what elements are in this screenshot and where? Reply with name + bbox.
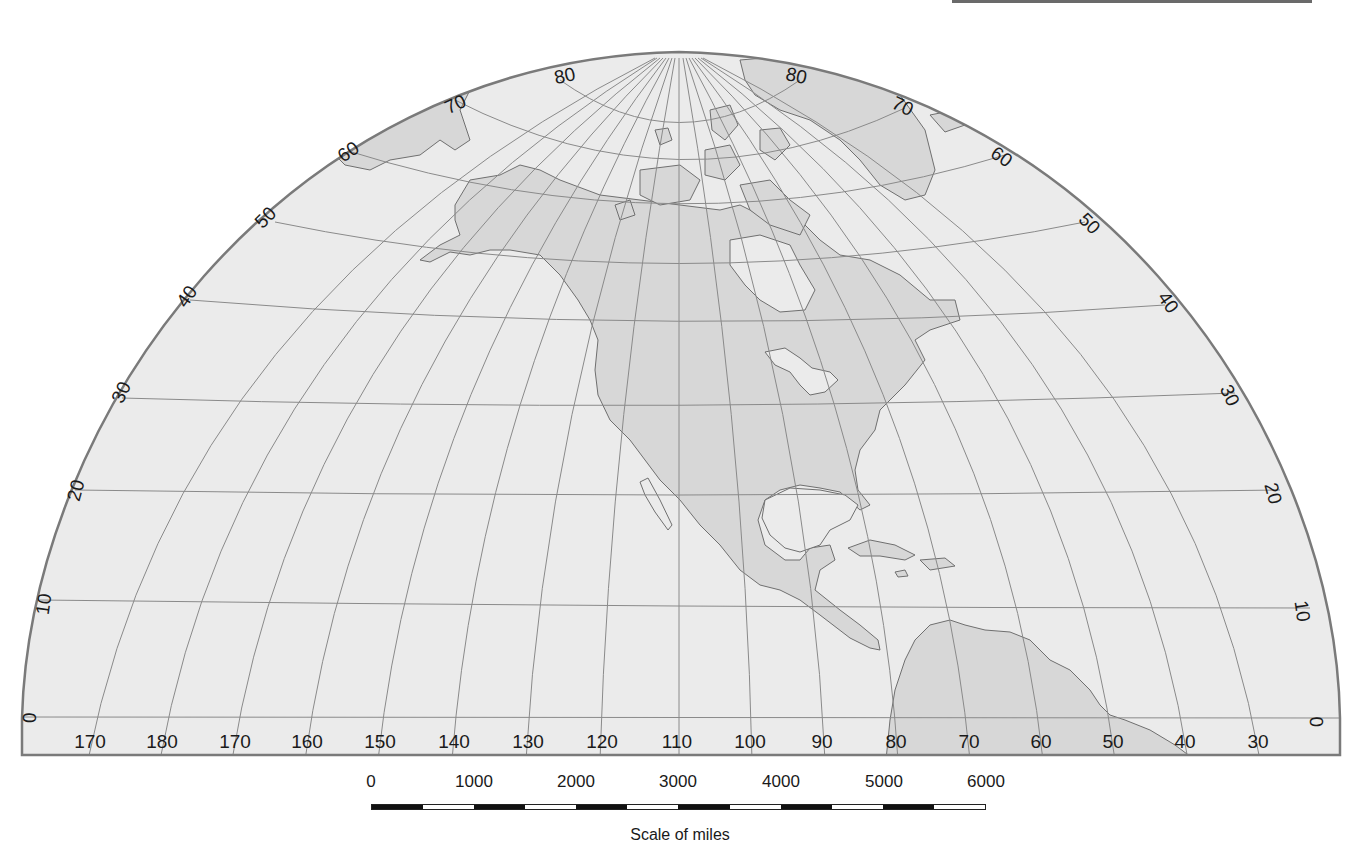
lat-label: 10 xyxy=(32,592,56,616)
scale-segment xyxy=(883,805,934,809)
lon-label: 60 xyxy=(1030,731,1051,752)
lon-label: 50 xyxy=(1102,731,1123,752)
lon-label: 160 xyxy=(291,731,323,752)
lon-label: 110 xyxy=(662,731,692,752)
scale-title: Scale of miles xyxy=(360,826,1000,844)
lon-label: 140 xyxy=(438,731,470,752)
lat-label: 10 xyxy=(1291,599,1315,623)
scale-segment xyxy=(474,805,525,809)
lon-label: 170 xyxy=(219,731,251,752)
scale-tick: 4000 xyxy=(762,772,800,792)
scale-tick: 0 xyxy=(366,772,375,792)
lat-label: 0 xyxy=(19,712,40,723)
scale-tick: 2000 xyxy=(557,772,595,792)
lat-label: 80 xyxy=(784,63,809,88)
lon-label: 120 xyxy=(586,731,618,752)
scale-tick: 6000 xyxy=(967,772,1005,792)
lon-label: 30 xyxy=(1247,731,1268,752)
scale-of-miles: 0 1000 2000 3000 4000 5000 6000 Scale of… xyxy=(360,772,1000,852)
lon-label: 40 xyxy=(1174,731,1195,752)
scale-segment xyxy=(372,805,423,809)
scale-tick: 1000 xyxy=(455,772,493,792)
lon-label: 70 xyxy=(958,731,979,752)
scale-segment xyxy=(678,805,729,809)
scale-segment xyxy=(730,805,781,809)
lon-label: 170 xyxy=(74,731,106,752)
scale-tick: 3000 xyxy=(659,772,697,792)
lon-label: 80 xyxy=(885,731,906,752)
scale-segment xyxy=(423,805,474,809)
lon-label: 150 xyxy=(364,731,396,752)
scale-segment xyxy=(934,805,985,809)
lon-label: 90 xyxy=(811,731,832,752)
lon-label: 100 xyxy=(734,731,766,752)
scale-segment xyxy=(781,805,832,809)
lon-label: 180 xyxy=(146,731,178,752)
map: 170 180 170 160 150 140 130 120 110 100 … xyxy=(0,0,1347,770)
scale-segment xyxy=(832,805,883,809)
scale-segment xyxy=(525,805,576,809)
scale-bar xyxy=(371,804,986,810)
scale-tick: 5000 xyxy=(865,772,903,792)
lon-label: 130 xyxy=(512,731,544,752)
scale-segment xyxy=(576,805,627,809)
scale-segment xyxy=(627,805,678,809)
lat-label: 0 xyxy=(1306,716,1327,727)
lat-label: 80 xyxy=(552,63,577,88)
